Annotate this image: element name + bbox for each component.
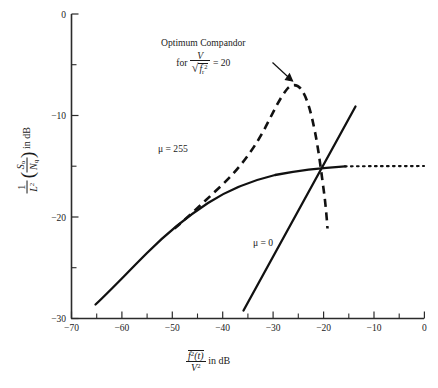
curve-label-mu-255: μ = 255 [158, 144, 188, 154]
y-axis-L-exp: 2 [28, 183, 35, 186]
annotation-fraction: V √fr2 [190, 51, 211, 76]
y-axis-one: 1 [17, 181, 28, 194]
y-axis-S: S [15, 164, 26, 169]
y-tick-label: 0 [61, 10, 66, 20]
left-paren: ( [17, 172, 38, 178]
y-axis-S-sub: o [19, 161, 26, 164]
x-tick-label: −40 [215, 323, 230, 333]
x-tick-label: −60 [114, 323, 129, 333]
x-tick-label: −20 [316, 323, 331, 333]
annotation-sqrt: √fr2 [192, 62, 209, 75]
curve-label-mu-0: μ = 0 [253, 238, 273, 248]
x-tick-label: −10 [367, 323, 382, 333]
x-axis-tick-labels: −70 −60 −50 −40 −30 −20 −10 0 [64, 323, 427, 333]
x-axis-V-exp: 2 [197, 362, 200, 369]
annotation-f-exp: 2 [204, 63, 207, 70]
x-tick-label: −70 [64, 323, 79, 333]
x-axis-label: f2(t) V2 in dB [186, 350, 230, 373]
y-tick-label: −10 [51, 111, 66, 121]
y-axis-N: N [28, 163, 39, 170]
y-tick-label: −20 [51, 213, 66, 223]
annotation-equals-value: = 20 [213, 56, 230, 67]
y-axis-ratio: So Nq [16, 158, 41, 172]
y-axis-L: L [28, 186, 39, 192]
x-tick-label: −30 [266, 323, 281, 333]
x-tick-label: 0 [422, 323, 427, 333]
x-tick-label: −50 [165, 323, 180, 333]
annotation-optimum-compandor: Optimum Compandor for V √fr2 = 20 [161, 38, 245, 75]
annotation-numerator-V: V [197, 50, 203, 61]
curve-optimum-compandor [175, 85, 328, 228]
y-axis-label: 1 L2 ( So Nq ) in dB [16, 80, 41, 240]
annotation-line1: Optimum Compandor [161, 37, 245, 48]
y-axis-N-sub: q [33, 160, 40, 163]
sqrt-icon: √ [192, 61, 199, 75]
annotation-for-label: for [176, 56, 187, 67]
y-axis-units: in dB [21, 127, 32, 149]
right-paren: ) [17, 152, 38, 158]
figure-container: −70 −60 −50 −40 −30 −20 −10 0 0 −10 −20 … [0, 0, 438, 388]
annotation-arrow [273, 63, 293, 82]
x-axis-units: in dB [208, 355, 230, 366]
y-tick-label: −30 [51, 314, 66, 324]
y-axis-tick-labels: 0 −10 −20 −30 [51, 10, 66, 325]
y-axis-prefactor: 1 L2 [17, 181, 39, 194]
x-axis-fraction: f2(t) V2 [186, 350, 206, 373]
x-axis-t: (t) [194, 350, 203, 361]
